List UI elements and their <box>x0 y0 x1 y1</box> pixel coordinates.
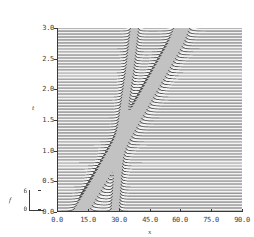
x-tick-mark <box>88 209 89 212</box>
figure-root: 0.00.51.01.52.02.53.0 0.015.030.045.060.… <box>0 0 254 237</box>
y-tick-mark <box>54 120 57 121</box>
x-tick-mark <box>242 209 243 212</box>
y-tick-mark <box>54 89 57 90</box>
y-tick-label: 2.0 <box>42 85 54 93</box>
x-tick-mark <box>211 209 212 212</box>
y-tick-mark <box>54 151 57 152</box>
y-tick-mark <box>54 181 57 182</box>
x-tick-mark <box>119 209 120 212</box>
x-tick-label: 0.0 <box>51 216 63 224</box>
x-tick-label: 15.0 <box>80 216 96 224</box>
x-tick-label: 30.0 <box>111 216 127 224</box>
inset-tick-label-min: 0 <box>23 205 27 212</box>
y-axis-tick-layer: 0.00.51.01.52.02.53.0 <box>25 28 54 212</box>
y-tick-mark <box>54 28 57 29</box>
y-tick-label: 1.5 <box>42 116 54 124</box>
y-tick-label: 0.5 <box>42 177 54 185</box>
inset-tick-label-max: 6 <box>23 187 27 194</box>
inset-tick-mark-bottom <box>38 209 41 210</box>
y-tick-mark <box>54 212 57 213</box>
x-tick-label: 75.0 <box>203 216 219 224</box>
x-axis-tick-layer: 0.015.030.045.060.075.090.0 <box>57 216 242 228</box>
amplitude-scale-inset: 6 0 <box>18 188 44 214</box>
x-tick-mark <box>150 209 151 212</box>
x-tick-mark <box>57 209 58 212</box>
x-tick-label: 45.0 <box>142 216 158 224</box>
x-tick-mark <box>180 209 181 212</box>
inset-axis <box>29 190 44 211</box>
plot-frame <box>57 28 242 212</box>
inset-tick-mark-top <box>38 190 41 191</box>
x-axis-title: x <box>148 228 151 235</box>
x-tick-label: 90.0 <box>234 216 250 224</box>
y-tick-label: 2.5 <box>42 55 54 63</box>
y-tick-label: 3.0 <box>42 24 54 32</box>
x-tick-label: 60.0 <box>172 216 188 224</box>
waterfall-plot-canvas <box>58 28 242 211</box>
y-tick-mark <box>54 59 57 60</box>
y-axis-title: t <box>32 104 34 111</box>
inset-axis-title: f <box>9 196 11 203</box>
y-tick-label: 1.0 <box>42 147 54 155</box>
y-tick-label: 0.0 <box>42 208 54 216</box>
